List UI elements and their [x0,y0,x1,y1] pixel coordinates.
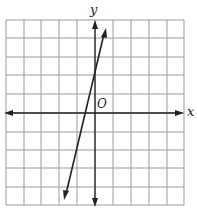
graphed-line [63,28,107,200]
x-axis-label: x [187,104,194,119]
x-axis [4,110,184,116]
origin-label: O [97,97,107,111]
y-axis-label: y [90,2,97,17]
